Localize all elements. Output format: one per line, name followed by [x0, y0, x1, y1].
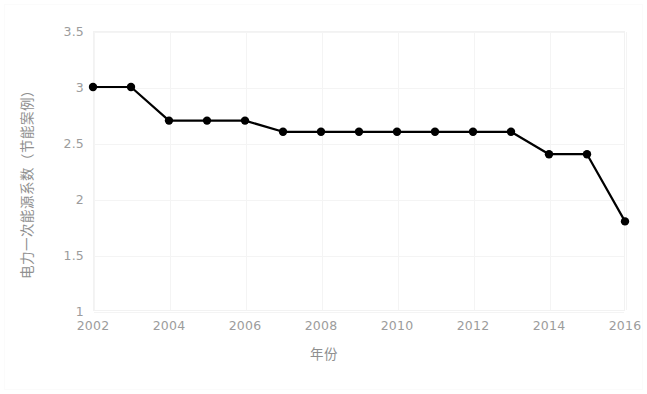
data-point-marker [583, 150, 591, 158]
data-series-layer [0, 0, 647, 394]
data-point-marker [469, 128, 477, 136]
data-point-marker [393, 128, 401, 136]
data-point-marker [355, 128, 363, 136]
chart-figure: 11.522.533.5 200220042006200820102012201… [0, 0, 647, 394]
data-point-marker [431, 128, 439, 136]
data-point-marker [241, 116, 249, 124]
data-point-marker [507, 128, 515, 136]
data-point-marker [165, 116, 173, 124]
x-axis-label: 年份 [0, 343, 647, 363]
data-point-marker [279, 128, 287, 136]
y-axis-label: 电力一次能源系数（节能案例） [16, 51, 36, 311]
data-point-marker [317, 128, 325, 136]
data-point-marker [203, 116, 211, 124]
data-point-marker [545, 150, 553, 158]
data-point-marker [89, 83, 97, 91]
series-markers [89, 83, 629, 226]
data-point-marker [127, 83, 135, 91]
data-point-marker [621, 217, 629, 225]
